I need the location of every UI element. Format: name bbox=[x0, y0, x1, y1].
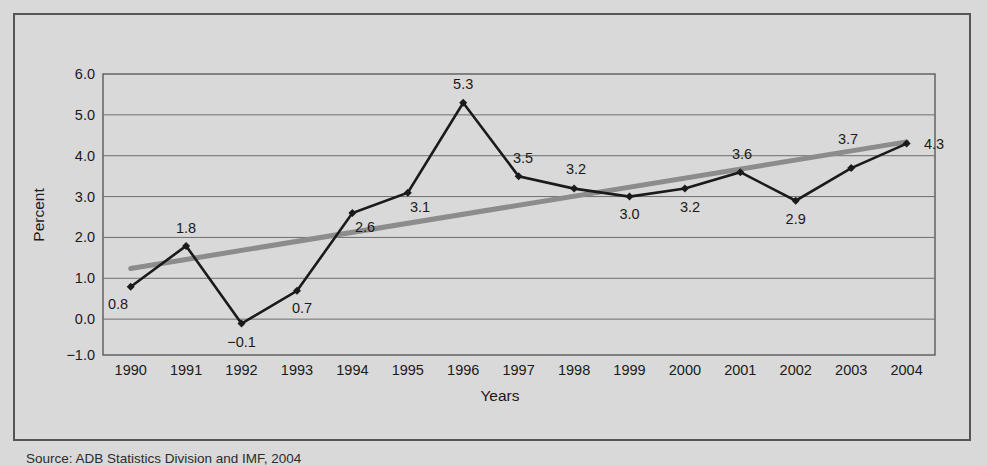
y-axis-tick-labels: 6.0 5.0 4.0 3.0 2.0 1.0 0.0 −1.0 bbox=[66, 66, 95, 363]
x-tick-label: 2000 bbox=[669, 362, 701, 378]
x-axis-title: Years bbox=[480, 387, 519, 404]
point-label: 3.2 bbox=[680, 199, 700, 215]
x-tick-label: 1996 bbox=[447, 362, 479, 378]
point-label: 1.8 bbox=[176, 220, 196, 236]
y-tick-label: 1.0 bbox=[75, 270, 95, 286]
point-label: 5.3 bbox=[453, 76, 473, 92]
y-tick-label: −1.0 bbox=[66, 347, 95, 363]
x-tick-label: 1992 bbox=[225, 362, 257, 378]
x-axis-tick-labels: 1990 1991 1992 1993 1994 1995 1996 1997 … bbox=[115, 362, 923, 378]
x-tick-label: 1993 bbox=[281, 362, 313, 378]
point-label: 3.5 bbox=[513, 150, 533, 166]
plot-area bbox=[103, 74, 935, 355]
y-tick-label: 6.0 bbox=[75, 66, 95, 82]
point-label: 3.7 bbox=[838, 131, 858, 147]
x-tick-label: 1994 bbox=[336, 362, 368, 378]
point-label: 3.1 bbox=[410, 199, 430, 215]
x-tick-label: 2002 bbox=[780, 362, 812, 378]
point-label: −0.1 bbox=[227, 334, 256, 350]
x-tick-label: 1990 bbox=[115, 362, 147, 378]
y-tick-label: 5.0 bbox=[75, 107, 95, 123]
point-label: 3.6 bbox=[732, 146, 752, 162]
y-tick-label: 4.0 bbox=[75, 148, 95, 164]
x-tick-label: 1991 bbox=[170, 362, 202, 378]
point-label: 3.2 bbox=[566, 161, 586, 177]
point-label: 0.7 bbox=[292, 300, 312, 316]
point-label: 4.3 bbox=[924, 136, 944, 152]
x-tick-label: 1995 bbox=[392, 362, 424, 378]
y-tick-label: 2.0 bbox=[75, 229, 95, 245]
y-tick-label: 3.0 bbox=[75, 189, 95, 205]
point-label: 3.0 bbox=[619, 206, 639, 222]
x-tick-label: 2004 bbox=[890, 362, 922, 378]
x-tick-label: 1998 bbox=[558, 362, 590, 378]
y-tick-label: 0.0 bbox=[75, 311, 95, 327]
point-label: 2.6 bbox=[355, 219, 375, 235]
x-tick-label: 1997 bbox=[502, 362, 534, 378]
x-tick-label: 2003 bbox=[835, 362, 867, 378]
x-tick-label: 1999 bbox=[613, 362, 645, 378]
point-label: 2.9 bbox=[786, 211, 806, 227]
point-label: 0.8 bbox=[108, 296, 128, 312]
source-caption: Source: ADB Statistics Division and IMF,… bbox=[26, 451, 301, 466]
x-tick-label: 2001 bbox=[724, 362, 756, 378]
y-axis-title: Percent bbox=[30, 188, 47, 242]
